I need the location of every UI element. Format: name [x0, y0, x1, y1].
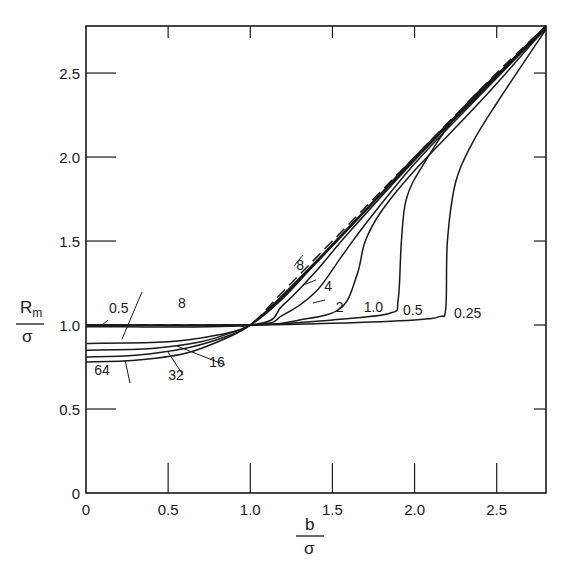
x-tick-label: 0.5: [158, 501, 179, 518]
curve-label: 64: [94, 362, 110, 378]
curve-label: 0.5: [403, 302, 423, 318]
y-tick-label: 0.5: [59, 401, 80, 418]
curve-label: 2: [336, 299, 344, 315]
curve-16: [86, 26, 546, 350]
curve-asymptote-dashed-: [86, 26, 546, 328]
curve-label: 0.25: [454, 305, 481, 321]
y-tick-label: 0: [72, 485, 80, 502]
y-tick-label: 2.0: [59, 149, 80, 166]
label-arrow: [125, 360, 130, 383]
y-axis-title-sigma: σ: [22, 327, 33, 346]
curve-2: [86, 28, 546, 326]
y-tick-label: 2.5: [59, 65, 80, 82]
curve-0-5: [86, 29, 546, 325]
label-arrow: [313, 300, 325, 303]
curve-label: 32: [168, 367, 184, 383]
curve-label: 0.5: [109, 300, 129, 316]
x-axis-title-sigma: σ: [304, 539, 315, 558]
y-axis-title-r: Rm: [20, 298, 42, 320]
x-tick-label: 1.5: [322, 501, 343, 518]
curve-8: [86, 26, 546, 343]
x-tick-label: 0: [82, 501, 90, 518]
axis-titles: Rm σ b σ: [16, 298, 324, 558]
curve-4: [86, 28, 546, 327]
y-tick-label: 1.5: [59, 233, 80, 250]
curve-0-25: [86, 29, 546, 325]
x-tick-label: 1.0: [240, 501, 261, 518]
chart: 00.51.01.52.02.500.51.01.52.02.5 0.58643…: [0, 0, 562, 570]
curve-1-0: [86, 28, 546, 326]
x-tick-label: 2.5: [486, 501, 507, 518]
y-tick-label: 1.0: [59, 317, 80, 334]
curve-label: 1.0: [364, 299, 384, 315]
curve-label: 4: [324, 278, 332, 294]
x-tick-label: 2.0: [404, 501, 425, 518]
curve-label: 8: [178, 295, 186, 311]
x-axis-title-b: b: [305, 515, 314, 534]
